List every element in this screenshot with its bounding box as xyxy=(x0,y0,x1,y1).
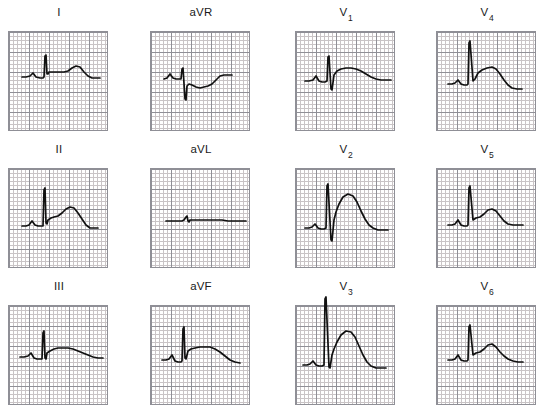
ecg-waveform-V6 xyxy=(448,325,523,362)
ecg-panel-lead-I[interactable]: I xyxy=(0,0,118,137)
ecg-row-2: II aVL V2 V5 xyxy=(0,137,552,274)
lead-label-II: II xyxy=(0,142,118,160)
ecg-trace-svg-V2 xyxy=(295,168,397,270)
ecg-sheet: I aVR V1 V4 xyxy=(0,0,552,412)
ecg-waveform-aVL xyxy=(166,216,246,222)
ecg-waveform-V1 xyxy=(305,56,391,90)
ecg-trace-svg-V6 xyxy=(436,305,538,407)
ecg-trace-svg-V3 xyxy=(295,305,397,407)
ecg-panel-lead-aVF[interactable]: aVF xyxy=(142,274,260,411)
ecg-grid-lead-aVR xyxy=(150,31,250,131)
ecg-waveform-aVR xyxy=(164,68,232,100)
ecg-trace-svg-II xyxy=(8,168,110,270)
ecg-waveform-II xyxy=(22,188,98,228)
ecg-row-1: I aVR V1 V4 xyxy=(0,0,552,137)
lead-label-V1: V1 xyxy=(287,5,405,23)
lead-label-III: III xyxy=(0,279,118,297)
ecg-grid-lead-V3 xyxy=(295,305,395,405)
ecg-panel-lead-aVR[interactable]: aVR xyxy=(142,0,260,137)
ecg-waveform-I xyxy=(22,55,100,78)
ecg-waveform-V2 xyxy=(305,184,388,241)
ecg-panel-lead-V5[interactable]: V5 xyxy=(428,137,546,274)
ecg-grid-lead-V1 xyxy=(295,31,395,131)
lead-label-I: I xyxy=(0,5,118,23)
ecg-waveform-V3 xyxy=(303,297,386,368)
ecg-trace-svg-V4 xyxy=(436,31,538,133)
ecg-trace-svg-aVL xyxy=(150,168,252,270)
ecg-panel-lead-III[interactable]: III xyxy=(0,274,118,411)
ecg-trace-svg-aVR xyxy=(150,31,252,133)
lead-label-aVF: aVF xyxy=(142,279,260,297)
ecg-grid-lead-V2 xyxy=(295,168,395,268)
ecg-panel-lead-V6[interactable]: V6 xyxy=(428,274,546,411)
ecg-trace-svg-aVF xyxy=(150,305,252,407)
lead-label-V3: V3 xyxy=(287,279,405,297)
ecg-trace-svg-V5 xyxy=(436,168,538,270)
ecg-grid-lead-III xyxy=(8,305,108,405)
lead-label-V2: V2 xyxy=(287,142,405,160)
ecg-panel-lead-V4[interactable]: V4 xyxy=(428,0,546,137)
lead-label-V6: V6 xyxy=(428,279,546,297)
ecg-row-3: III aVF V3 V6 xyxy=(0,274,552,411)
ecg-trace-svg-V1 xyxy=(295,31,397,133)
ecg-waveform-V4 xyxy=(448,41,522,89)
ecg-waveform-aVF xyxy=(162,327,240,363)
ecg-trace-svg-I xyxy=(8,31,110,133)
ecg-panel-lead-V2[interactable]: V2 xyxy=(287,137,405,274)
lead-label-V4: V4 xyxy=(428,5,546,23)
ecg-panel-lead-V1[interactable]: V1 xyxy=(287,0,405,137)
lead-label-aVR: aVR xyxy=(142,5,260,23)
lead-label-aVL: aVL xyxy=(142,142,260,160)
lead-label-V5: V5 xyxy=(428,142,546,160)
ecg-waveform-III xyxy=(20,331,103,359)
ecg-grid-lead-aVL xyxy=(150,168,250,268)
ecg-panel-lead-aVL[interactable]: aVL xyxy=(142,137,260,274)
ecg-grid-lead-V5 xyxy=(436,168,536,268)
ecg-grid-lead-II xyxy=(8,168,108,268)
ecg-panel-lead-V3[interactable]: V3 xyxy=(287,274,405,411)
ecg-grid-lead-V6 xyxy=(436,305,536,405)
ecg-grid-lead-I xyxy=(8,31,108,131)
ecg-grid-lead-V4 xyxy=(436,31,536,131)
ecg-panel-lead-II[interactable]: II xyxy=(0,137,118,274)
ecg-grid-lead-aVF xyxy=(150,305,250,405)
ecg-trace-svg-III xyxy=(8,305,110,407)
ecg-waveform-V5 xyxy=(448,186,523,226)
